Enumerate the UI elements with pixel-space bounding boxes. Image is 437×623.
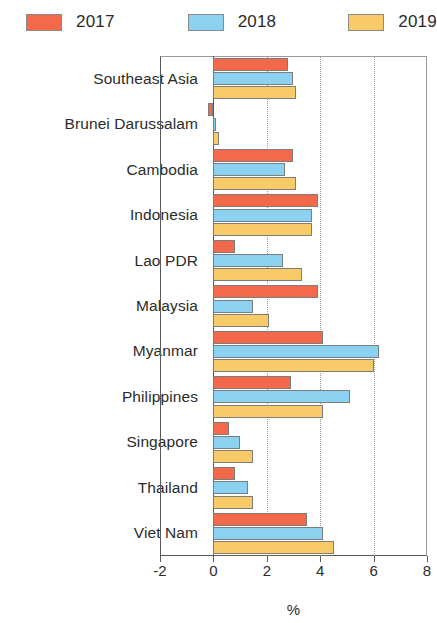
bar-cambodia-2017 <box>213 149 293 162</box>
legend-swatch-2018 <box>188 14 224 31</box>
bar-singapore-2017 <box>213 422 229 435</box>
x-tick-label-8: 8 <box>423 562 431 579</box>
bar-viet-nam-2019 <box>213 541 333 554</box>
bar-southeast-asia-2017 <box>213 58 288 71</box>
axes-frame <box>160 56 427 556</box>
bar-philippines-2017 <box>213 376 290 389</box>
bar-lao-pdr-2017 <box>213 240 234 253</box>
bar-indonesia-2019 <box>213 223 312 236</box>
bar-lao-pdr-2018 <box>213 254 282 267</box>
chart-axes: -202468 % <box>160 56 427 556</box>
gridline-6 <box>374 56 375 556</box>
bar-indonesia-2017 <box>213 194 317 207</box>
bar-brunei-darussalam-2017 <box>208 103 213 116</box>
legend-item-2017: 2017 <box>26 12 115 32</box>
bar-malaysia-2017 <box>213 285 317 298</box>
legend-item-2019: 2019 <box>348 12 437 32</box>
legend-swatch-2019 <box>348 14 384 31</box>
bar-myanmar-2018 <box>213 345 379 358</box>
legend-label-2019: 2019 <box>398 12 437 32</box>
legend-label-2017: 2017 <box>76 12 115 32</box>
x-axis-title: % <box>160 601 427 618</box>
bar-cambodia-2019 <box>213 177 296 190</box>
bar-indonesia-2018 <box>213 209 312 222</box>
bar-brunei-darussalam-2019 <box>213 132 218 145</box>
gridline-2 <box>267 56 268 556</box>
bar-malaysia-2019 <box>213 314 269 327</box>
bar-myanmar-2019 <box>213 359 373 372</box>
bar-brunei-darussalam-2018 <box>213 118 216 131</box>
x-tick-label-2: 2 <box>263 562 271 579</box>
chart-legend: 2017 2018 2019 <box>0 0 432 44</box>
bar-lao-pdr-2019 <box>213 268 301 281</box>
bar-myanmar-2017 <box>213 331 322 344</box>
bar-southeast-asia-2018 <box>213 72 293 85</box>
bar-southeast-asia-2019 <box>213 86 296 99</box>
bar-philippines-2018 <box>213 390 349 403</box>
bar-viet-nam-2017 <box>213 513 306 526</box>
gridline-4 <box>320 56 321 556</box>
x-tick-label--2: -2 <box>153 562 166 579</box>
bar-philippines-2019 <box>213 405 322 418</box>
x-tick-label-4: 4 <box>316 562 324 579</box>
bar-viet-nam-2018 <box>213 527 322 540</box>
bar-thailand-2019 <box>213 496 253 509</box>
bar-singapore-2018 <box>213 436 240 449</box>
x-tick-label-6: 6 <box>369 562 377 579</box>
legend-label-2018: 2018 <box>238 12 277 32</box>
x-tick-label-0: 0 <box>209 562 217 579</box>
bar-thailand-2018 <box>213 481 248 494</box>
chart-plot-area: Southeast AsiaBrunei DarussalamCambodiaI… <box>0 44 432 623</box>
bar-cambodia-2018 <box>213 163 285 176</box>
legend-item-2018: 2018 <box>188 12 277 32</box>
legend-swatch-2017 <box>26 14 62 31</box>
bar-malaysia-2018 <box>213 300 253 313</box>
bar-thailand-2017 <box>213 467 234 480</box>
bar-singapore-2019 <box>213 450 253 463</box>
